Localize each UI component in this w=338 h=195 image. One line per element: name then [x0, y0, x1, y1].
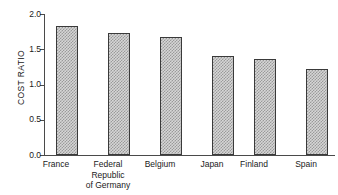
- y-axis-title: COST RATIO: [14, 0, 28, 155]
- bar-france: [56, 26, 78, 155]
- bar-federal-republic-of-germany: [108, 33, 130, 155]
- y-axis-line: [44, 14, 45, 155]
- bar-chart-figure: COST RATIO 2.0 1.5 1.0 0.5 0.0: [0, 0, 338, 195]
- plot-area: 2.0 1.5 1.0 0.5 0.0: [44, 14, 335, 155]
- y-tick-label: 0.0: [29, 150, 41, 160]
- y-tick-label: 2.0: [29, 9, 41, 19]
- y-tick-label: 1.5: [29, 44, 41, 54]
- x-label-spain: Spain: [269, 159, 338, 170]
- x-axis-line: [44, 155, 335, 156]
- bar-belgium: [160, 37, 182, 155]
- bar-finland: [254, 59, 276, 155]
- y-tick-label: 0.5: [29, 114, 41, 124]
- y-tick-label: 1.0: [29, 79, 41, 89]
- bar-spain: [306, 69, 328, 155]
- bar-japan: [212, 56, 234, 155]
